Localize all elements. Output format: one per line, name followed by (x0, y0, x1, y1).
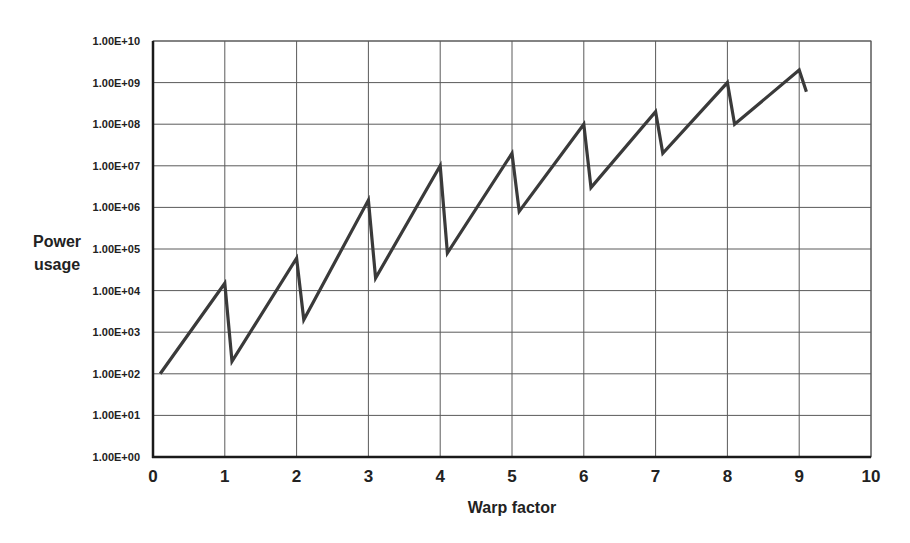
x-tick-label: 6 (579, 467, 588, 486)
y-axis-label: Power (33, 233, 81, 250)
y-axis-ticks: 1.00E+001.00E+011.00E+021.00E+031.00E+04… (93, 35, 141, 463)
x-tick-label: 5 (507, 467, 516, 486)
power-usage-line (160, 70, 806, 374)
y-tick-label: 1.00E+00 (93, 451, 140, 463)
grid-lines (153, 41, 871, 457)
x-axis-label: Warp factor (468, 499, 556, 516)
x-axis-ticks: 012345678910 (148, 467, 880, 486)
y-tick-label: 1.00E+04 (93, 285, 141, 297)
y-tick-label: 1.00E+03 (93, 326, 140, 338)
y-tick-label: 1.00E+01 (93, 409, 140, 421)
x-tick-label: 8 (723, 467, 732, 486)
x-tick-label: 9 (794, 467, 803, 486)
x-tick-label: 10 (862, 467, 881, 486)
y-tick-label: 1.00E+07 (93, 160, 140, 172)
x-tick-label: 4 (435, 467, 445, 486)
chart: 1.00E+001.00E+011.00E+021.00E+031.00E+04… (0, 0, 910, 543)
x-tick-label: 3 (364, 467, 373, 486)
x-tick-label: 7 (651, 467, 660, 486)
y-axis-label-line-2: usage (34, 256, 80, 273)
y-tick-label: 1.00E+02 (93, 368, 140, 380)
x-tick-label: 0 (148, 467, 157, 486)
y-tick-label: 1.00E+05 (93, 243, 140, 255)
y-tick-label: 1.00E+09 (93, 77, 140, 89)
x-tick-label: 1 (220, 467, 229, 486)
y-tick-label: 1.00E+10 (93, 35, 140, 47)
y-tick-label: 1.00E+06 (93, 201, 140, 213)
x-tick-label: 2 (292, 467, 301, 486)
y-tick-label: 1.00E+08 (93, 118, 140, 130)
